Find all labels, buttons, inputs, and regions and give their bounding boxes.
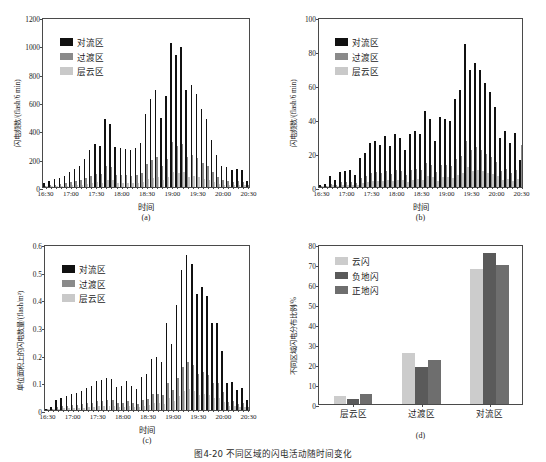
x-axis-tick-mark [91,187,92,189]
x-axis-tick-mark [497,187,498,189]
x-axis-tick-mark [93,410,94,412]
legend-swatch-transition [62,280,75,288]
legend-swatch-transition [60,53,73,61]
x-axis-tick-mark [177,187,178,189]
panel-c-legend: 对流区 过渡区 层云区 [62,263,106,304]
x-axis-tick-label: 18:00 [114,190,130,198]
y-axis-tick-label: 1000 [25,43,40,52]
x-axis-tick-mark [68,410,69,412]
bar [452,178,453,187]
bar [193,176,194,187]
bar [502,180,503,187]
x-axis-tick-mark [113,410,114,412]
x-axis-tick-label: 16:30 [38,190,54,198]
legend-swatch-stratiform [335,67,348,75]
bar [487,173,488,187]
x-axis-tick-mark [467,187,468,189]
x-axis-tick-mark [103,410,104,412]
x-axis-tick-mark [218,410,219,412]
x-axis-tick-mark [152,187,153,189]
x-axis-tick-mark [63,410,64,412]
x-axis-tick-label: 17:00 [339,190,355,198]
panel-b-xlabel: 时间 [318,200,523,212]
x-axis-tick-mark [382,187,383,189]
x-axis-tick-mark [51,187,52,189]
bar [107,180,108,187]
bar [507,179,508,187]
x-axis-tick-mark [203,187,204,189]
legend-label: 过渡区 [77,51,104,63]
y-axis-tick-label: 0.1 [33,380,42,389]
legend-label: 对流区 [77,36,104,48]
x-axis-tick-mark [88,410,89,412]
y-axis-tick-mark [42,329,45,330]
y-axis-tick-label: 0.5 [33,269,42,278]
x-axis-tick-mark [372,187,373,189]
x-axis-tick-mark [147,187,148,189]
x-axis-tick-mark [422,404,423,407]
x-axis-tick-mark [213,410,214,412]
x-axis-tick-mark [48,410,49,412]
x-axis-tick-mark [193,410,194,412]
y-axis-tick-label: 0.4 [33,297,42,306]
x-axis-tick-mark [81,187,82,189]
y-axis-tick-label: 20 [309,362,316,371]
x-axis-tick-label: 19:30 [190,190,206,198]
y-axis-tick-label: 40 [309,322,316,331]
y-axis-tick-mark [316,306,319,307]
y-axis-tick-label: 100 [305,15,316,24]
bar [189,389,190,410]
legend-item: 对流区 [60,36,104,48]
bar [442,177,443,187]
x-axis-tick-mark [106,187,107,189]
y-axis-tick-label: 600 [29,100,40,109]
y-axis-tick-label: 80 [309,49,316,58]
legend-swatch-convective [60,38,73,46]
legend-label: 对流区 [352,36,379,48]
bar [158,177,159,187]
y-axis-tick-mark [40,47,43,48]
x-axis-tick-mark [157,187,158,189]
x-axis-category-label: 层云区 [340,407,367,419]
x-axis-tick-mark [138,410,139,412]
panel-c: 单位面积上的闪电数量/(flash/m²) 00.10.20.30.40.50.… [0,231,273,462]
x-axis-tick-mark [327,187,328,189]
bar [199,395,200,410]
x-axis-tick-mark [238,187,239,189]
y-axis-tick-mark [40,19,43,20]
y-axis-tick-mark [42,301,45,302]
y-axis-tick-label: 800 [29,71,40,80]
legend-label: 层云区 [79,292,106,304]
x-axis-tick-mark [233,187,234,189]
legend-swatch-stratiform [62,294,75,302]
bar [432,177,433,187]
y-axis-tick-mark [316,155,319,156]
x-axis-tick-label: 20:30 [514,190,530,198]
x-axis-tick-mark [46,187,47,189]
x-axis-tick-label: 18:00 [115,413,131,421]
bar [467,167,468,187]
panel-c-tag: (c) [44,436,250,445]
x-axis-tick-label: 20:30 [240,190,256,198]
y-axis-tick-mark [40,161,43,162]
y-axis-tick-label: 70 [309,262,316,271]
panel-d-tag: (d) [318,431,523,440]
legend-item: 负地闪 [335,270,379,282]
x-axis-tick-mark [96,187,97,189]
y-axis-tick-mark [316,406,319,407]
y-axis-tick-label: 1200 [25,15,40,24]
x-axis-tick-mark [142,187,143,189]
legend-item: 云闪 [335,255,379,267]
bar [174,401,175,410]
x-axis-tick-mark [58,410,59,412]
legend-swatch-positive-cg [335,286,348,294]
x-axis-tick-mark [172,187,173,189]
x-axis-tick-label: 20:00 [215,190,231,198]
x-axis-tick-mark [158,410,159,412]
panel-c-ylabel: 单位面积上的闪电数量/(flash/m²) [15,256,25,426]
y-axis-tick-label: 50 [309,302,316,311]
x-axis-tick-label: 19:30 [190,413,206,421]
x-axis-tick-mark [108,410,109,412]
bar [397,180,398,187]
bar [169,398,170,410]
